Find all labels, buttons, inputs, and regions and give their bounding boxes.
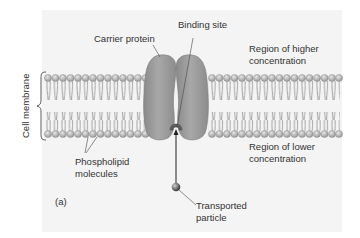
higher-region-label-line1: Region of higher xyxy=(249,43,319,54)
transported-particle-label-line1: Transported xyxy=(196,200,247,211)
lower-region-label-line1: Region of lower xyxy=(249,141,315,152)
higher-region-label-line2: concentration xyxy=(249,55,306,66)
cell-membrane-label: Cell membrane xyxy=(20,74,31,138)
transport-arrow xyxy=(174,129,179,185)
phospholipid-label-line2: molecules xyxy=(75,168,118,179)
panel-label: (a) xyxy=(55,196,67,207)
phospholipid-label-line1: Phospholipid xyxy=(75,156,129,167)
lower-region-label-line2: concentration xyxy=(249,153,306,164)
transported-particle-label-line2: particle xyxy=(196,212,227,223)
membrane-diagram xyxy=(0,0,360,238)
binding-site-label: Binding site xyxy=(178,19,227,30)
carrier-protein-label: Carrier protein xyxy=(94,33,155,44)
